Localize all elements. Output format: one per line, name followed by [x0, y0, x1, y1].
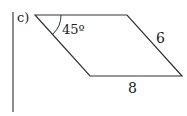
- angle-label: 45º: [62, 22, 85, 37]
- diagram-canvas: c) 45º 6 8: [0, 0, 187, 116]
- angle-arc: [53, 15, 61, 34]
- base-label: 8: [128, 80, 137, 96]
- side-label: 6: [156, 30, 165, 46]
- problem-label: c): [17, 10, 29, 25]
